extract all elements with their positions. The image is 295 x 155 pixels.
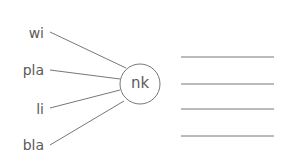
prefix-bla: bla [4, 137, 44, 153]
connector-wi [50, 32, 126, 68]
connector-bla [50, 101, 124, 145]
prefix-pla: pla [4, 62, 44, 78]
connector-li [50, 90, 120, 108]
prefix-wi: wi [4, 25, 44, 41]
prefix-li: li [4, 101, 44, 117]
center-syllable: nk [120, 75, 160, 91]
connector-pla [50, 70, 120, 79]
